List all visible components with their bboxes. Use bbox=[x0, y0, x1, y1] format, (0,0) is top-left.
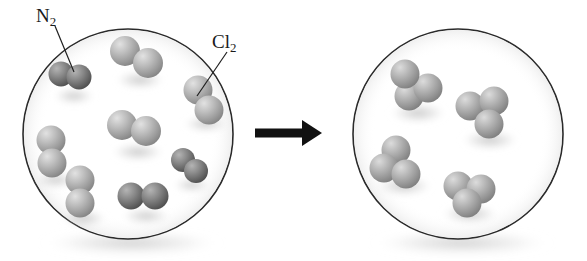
label-cl2-subscript: 2 bbox=[230, 40, 236, 55]
atom-nitrogen bbox=[142, 183, 169, 210]
atom-chlorine bbox=[195, 96, 224, 125]
label-cl2-element: Cl bbox=[212, 31, 230, 52]
atom-nitrogen bbox=[391, 60, 420, 89]
atom-chlorine bbox=[392, 160, 421, 189]
atom-chlorine bbox=[475, 110, 504, 139]
diagram-canvas bbox=[0, 0, 587, 261]
label-cl2: Cl2 bbox=[212, 32, 236, 55]
label-n2: N2 bbox=[36, 6, 56, 29]
arrow-head bbox=[302, 120, 322, 146]
reaction-arrow bbox=[255, 120, 322, 146]
reactants-container bbox=[23, 26, 233, 254]
products-container bbox=[353, 29, 563, 254]
atom-nitrogen bbox=[67, 65, 92, 90]
atom-chlorine bbox=[131, 116, 161, 146]
atom-chlorine bbox=[133, 48, 163, 78]
molecule-n2 bbox=[118, 183, 173, 226]
label-n2-subscript: 2 bbox=[50, 14, 56, 29]
molecule-shadow bbox=[110, 142, 166, 162]
atom-chlorine bbox=[66, 189, 95, 218]
atom-nitrogen bbox=[118, 183, 145, 210]
arrow-shaft bbox=[255, 129, 303, 138]
atom-nitrogen bbox=[184, 159, 208, 183]
atom-chlorine bbox=[453, 189, 482, 218]
atom-chlorine bbox=[38, 149, 67, 178]
molecule-shadow bbox=[52, 87, 96, 105]
molecule-shadow bbox=[120, 207, 172, 225]
reaction-diagram: N2 Cl2 bbox=[0, 0, 587, 261]
label-n2-element: N bbox=[36, 5, 50, 26]
